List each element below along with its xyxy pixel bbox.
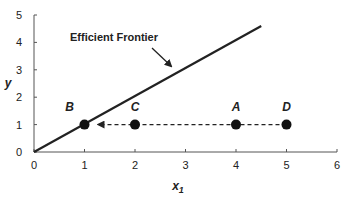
point-label: C xyxy=(131,100,140,114)
x-tick-label: 3 xyxy=(182,159,188,171)
data-point-b xyxy=(80,120,90,130)
annotation-arrow xyxy=(152,48,171,66)
y-tick-label: 1 xyxy=(16,119,22,131)
x-tick-label: 6 xyxy=(334,159,340,171)
efficient-frontier-chart: 0123456012345 BCAD Efficient Frontier x1… xyxy=(0,0,347,197)
x-axis-label: x1 xyxy=(171,179,184,195)
efficient-frontier-label: Efficient Frontier xyxy=(70,31,159,43)
annotation: Efficient Frontier xyxy=(70,31,171,66)
x-tick-label: 4 xyxy=(233,159,239,171)
x-tick-label: 1 xyxy=(81,159,87,171)
y-tick-label: 4 xyxy=(16,36,22,48)
y-tick-label: 5 xyxy=(16,9,22,21)
tick-labels: 0123456012345 xyxy=(16,9,340,171)
x-tick-label: 0 xyxy=(31,159,37,171)
x-tick-label: 5 xyxy=(283,159,289,171)
x-tick-label: 2 xyxy=(132,159,138,171)
y-axis-label: y xyxy=(4,76,13,90)
data-point-c xyxy=(130,120,140,130)
data-point-a xyxy=(231,120,241,130)
point-label: A xyxy=(231,100,241,114)
efficient-frontier-line xyxy=(34,26,261,152)
y-tick-label: 3 xyxy=(16,64,22,76)
point-label: B xyxy=(65,100,74,114)
y-tick-label: 0 xyxy=(16,146,22,158)
data-point-d xyxy=(282,120,292,130)
y-tick-label: 2 xyxy=(16,91,22,103)
point-label: D xyxy=(282,100,291,114)
